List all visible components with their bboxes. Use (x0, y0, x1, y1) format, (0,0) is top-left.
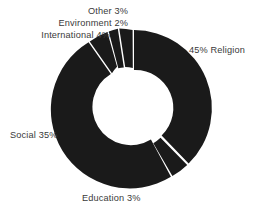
slice-label-religion: 45% Religion (189, 45, 245, 55)
slice-label-international: International 4% (41, 30, 110, 40)
donut-chart: Other 3% Environment 2% International 4%… (0, 0, 255, 208)
donut-slices (51, 28, 212, 188)
donut-chart-svg (0, 0, 255, 208)
slice-label-environment: Environment 2% (58, 18, 128, 28)
slice-label-social: Social 35% (10, 130, 57, 140)
slice-label-education: Education 3% (82, 193, 141, 203)
slice-label-other: Other 3% (88, 6, 128, 16)
